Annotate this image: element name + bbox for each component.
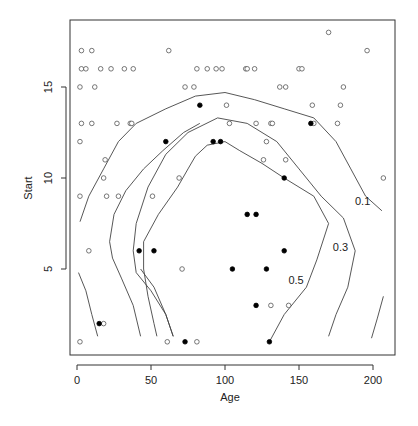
point-absent (300, 67, 305, 72)
y-tick-label: 10 (42, 172, 54, 184)
point-absent (310, 103, 315, 108)
contour-line-0-1-1 (79, 273, 98, 337)
point-absent (84, 67, 89, 72)
point-absent (90, 121, 95, 126)
point-present (218, 139, 223, 144)
plot-frame (70, 20, 395, 355)
point-absent (79, 121, 84, 126)
point-present (282, 176, 287, 181)
point-absent (101, 321, 106, 326)
contour-line-0-1-0 (80, 93, 382, 222)
point-absent (104, 194, 109, 199)
point-absent (115, 121, 120, 126)
point-absent (90, 48, 95, 53)
x-tick-label: 0 (74, 374, 80, 386)
y-tick-label: 5 (42, 266, 54, 272)
contour-line-0-3-0 (133, 118, 355, 336)
point-present (211, 139, 216, 144)
point-absent (92, 85, 97, 90)
point-absent (195, 340, 200, 345)
y-tick-label: 15 (42, 81, 54, 93)
x-axis-title: Age (220, 391, 240, 403)
point-absent (195, 67, 200, 72)
x-tick-label: 100 (216, 374, 234, 386)
point-absent (270, 121, 275, 126)
point-absent (180, 267, 185, 272)
contour-line-0-5-0 (110, 123, 200, 336)
point-present (164, 139, 169, 144)
point-absent (122, 67, 127, 72)
contour-label-0-3: 0.3 (333, 241, 348, 253)
point-present (264, 267, 269, 272)
point-absent (165, 340, 170, 345)
point-absent (286, 303, 291, 308)
point-absent (261, 158, 266, 163)
y-axis-title: Start (22, 176, 34, 199)
point-absent (109, 67, 114, 72)
point-absent (116, 194, 121, 199)
point-present (254, 212, 259, 217)
point-present (254, 303, 259, 308)
point-absent (283, 85, 288, 90)
point-absent (254, 121, 259, 126)
point-absent (381, 176, 386, 181)
point-present (152, 249, 157, 254)
point-present (245, 212, 250, 217)
point-absent (78, 139, 83, 144)
point-absent (205, 67, 210, 72)
points-layer (78, 30, 386, 344)
x-tick-label: 50 (145, 374, 157, 386)
point-present (137, 249, 142, 254)
point-absent (131, 67, 136, 72)
x-tick-label: 200 (364, 374, 382, 386)
point-absent (224, 103, 229, 108)
point-absent (87, 249, 92, 254)
point-absent (192, 85, 197, 90)
contour-layer: 0.10.30.5 (79, 93, 384, 342)
point-absent (227, 121, 232, 126)
x-tick-label: 150 (290, 374, 308, 386)
point-absent (252, 67, 257, 72)
point-present (198, 103, 203, 108)
point-absent (177, 176, 182, 181)
contour-label-0-1: 0.1 (355, 195, 370, 207)
point-absent (101, 176, 106, 181)
point-present (309, 121, 314, 126)
point-present (230, 267, 235, 272)
contour-scatter-chart: 0.10.30.5 05010015020051015 Age Start (0, 0, 418, 426)
point-present (267, 340, 272, 345)
point-absent (326, 30, 331, 35)
point-absent (150, 194, 155, 199)
point-absent (341, 85, 346, 90)
point-absent (129, 121, 134, 126)
point-absent (245, 67, 250, 72)
point-absent (365, 48, 370, 53)
contour-label-0-5: 0.5 (288, 274, 303, 286)
point-absent (78, 85, 83, 90)
point-absent (214, 67, 219, 72)
point-absent (335, 121, 340, 126)
point-absent (269, 303, 274, 308)
point-present (97, 321, 102, 326)
point-present (183, 340, 188, 345)
point-absent (183, 85, 188, 90)
point-absent (103, 158, 108, 163)
point-absent (338, 103, 343, 108)
point-absent (220, 67, 225, 72)
point-absent (78, 340, 83, 345)
point-absent (98, 67, 103, 72)
point-absent (277, 85, 282, 90)
point-absent (79, 48, 84, 53)
contour-line-0-1-2 (372, 296, 384, 338)
point-absent (79, 67, 84, 72)
point-absent (78, 194, 83, 199)
axes-layer: 05010015020051015 (42, 81, 382, 386)
point-absent (166, 48, 171, 53)
point-absent (264, 139, 269, 144)
point-absent (283, 158, 288, 163)
point-present (282, 249, 287, 254)
